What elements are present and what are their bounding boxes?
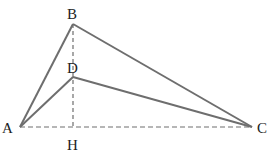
- segment-BC: [73, 24, 252, 127]
- label-A: A: [2, 120, 13, 136]
- segment-AD: [20, 77, 73, 127]
- segment-AB: [20, 24, 73, 127]
- label-B: B: [67, 6, 77, 22]
- geometry-figure: B D A H C: [0, 0, 275, 153]
- label-H: H: [67, 137, 78, 153]
- segment-DC: [73, 77, 252, 127]
- label-D: D: [67, 60, 78, 76]
- label-C: C: [257, 120, 267, 136]
